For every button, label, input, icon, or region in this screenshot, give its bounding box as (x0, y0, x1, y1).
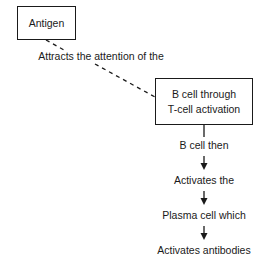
bcell-label-line2: T-cell activation (168, 102, 240, 117)
edge-label-attracts: Attracts the attention of the (38, 50, 164, 62)
bcell-label-line1: B cell through (172, 87, 236, 102)
dashed-connector-lower (95, 64, 155, 97)
arrow-down-icon (201, 156, 208, 170)
step-plasma-cell: Plasma cell which (162, 209, 245, 221)
step-activates-antibodies: Activates antibodies (157, 244, 250, 256)
antigen-box: Antigen (17, 6, 76, 40)
step-activates-the: Activates the (174, 174, 234, 186)
arrow-down-icon (201, 226, 208, 240)
arrow-down-icon (201, 191, 208, 205)
dashed-connector-upper (46, 40, 64, 50)
bcell-box: B cell through T-cell activation (155, 78, 253, 125)
step-bcell-then: B cell then (179, 139, 228, 151)
antigen-label: Antigen (29, 16, 65, 31)
